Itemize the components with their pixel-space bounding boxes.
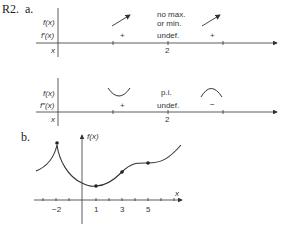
part-b-label: b. [21, 130, 30, 145]
table2-derivative-undef: undef. [157, 101, 179, 110]
table1-row-label-f: f(x) [43, 18, 55, 27]
table2-sign-right: − [210, 100, 215, 109]
inflection-point [120, 170, 124, 174]
table1-note-line1: no max. [157, 10, 185, 19]
table2-note-pi: p.i. [161, 88, 172, 97]
table1-row-label-fprime: f′(x) [41, 31, 54, 40]
increasing-arrow-icon [112, 15, 130, 26]
graph-tick-label: −2 [52, 205, 61, 214]
increasing-arrow-icon [202, 15, 220, 26]
minimum-point [94, 184, 98, 188]
table1-sign-left: + [120, 31, 125, 40]
table2-row-label-f: f(x) [43, 89, 55, 98]
graph-x-ticks [43, 198, 174, 201]
function-curve [36, 145, 181, 186]
table2-sign-left: + [120, 101, 125, 110]
graph-x-axis-label: x [175, 189, 179, 198]
table1-sign-right: + [210, 31, 215, 40]
table2-x-value: 2 [165, 115, 169, 124]
graph-tick-label: 3 [120, 205, 124, 214]
table1-x-value: 2 [165, 46, 169, 55]
table1-row-label-x: x [51, 46, 55, 55]
graph-tick-label: 5 [146, 205, 150, 214]
inflection-point [146, 161, 150, 165]
table1-note-line2: or min. [157, 19, 181, 28]
table2-row-label-x: x [51, 115, 55, 124]
table1-derivative-undef: undef. [157, 31, 179, 40]
cusp-max-point [55, 141, 59, 145]
graph-tick-label: 1 [94, 205, 98, 214]
graph-y-axis-label: f(x) [87, 132, 99, 141]
concave-up-arc-icon [108, 88, 130, 96]
concave-down-arc-icon [201, 89, 222, 98]
table2-row-label-fdoubleprime: f″(x) [40, 101, 54, 110]
